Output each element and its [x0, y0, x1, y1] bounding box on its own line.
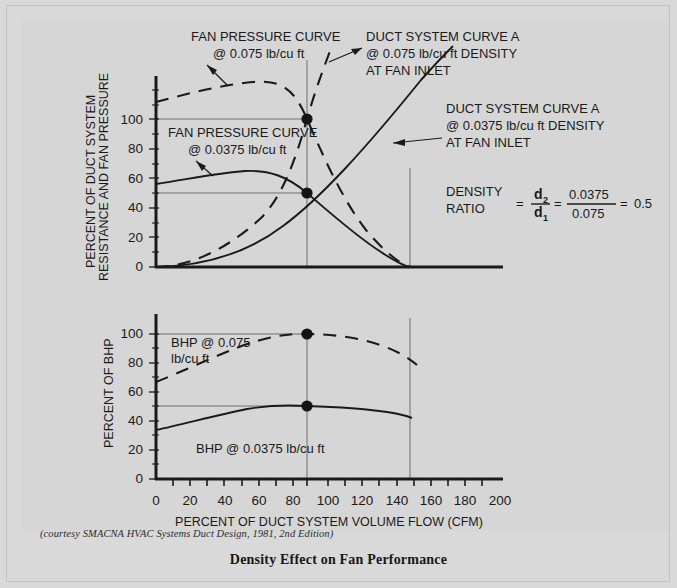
lower-xtick-120: 120 [351, 493, 374, 508]
figure-title: Density Effect on Fan Performance [0, 552, 677, 568]
density-fan-performance-figure: PERCENT OF DUCT SYSTEM RESISTANCE AND FA… [21, 18, 669, 531]
chart-plate: PERCENT OF DUCT SYSTEM RESISTANCE AND FA… [21, 18, 669, 531]
label-bhp-0075-line2: lb/cu ft [171, 351, 210, 366]
label-fan-0075-line2: @ 0.075 lb/cu ft [213, 46, 305, 61]
lower-ytick-20: 20 [128, 442, 143, 457]
density-ratio-denominator-value: 0.075 [572, 206, 605, 221]
lower-operating-point-00375 [301, 400, 312, 411]
upper-operating-point-00375 [301, 187, 312, 198]
density-ratio-label2: RATIO [446, 201, 485, 216]
lower-xtick-160: 160 [420, 493, 443, 508]
upper-ytick-0: 0 [135, 259, 143, 274]
label-duct-0075-line3: AT FAN INLET [366, 63, 451, 78]
lower-xtick-0: 0 [152, 493, 160, 508]
density-ratio-result: 0.5 [634, 196, 652, 211]
lower-chart: PERCENT OF BHP 0 20 40 60 80 100 [102, 314, 511, 529]
upper-operating-point-0075 [301, 113, 312, 124]
density-ratio-equals-2: = [554, 196, 562, 211]
lower-x-axis-label: PERCENT OF DUCT SYSTEM VOLUME FLOW (CFM) [175, 515, 483, 529]
label-duct-0075-line2: @ 0.075 lb/cu ft DENSITY [366, 46, 518, 61]
figure-frame: PERCENT OF DUCT SYSTEM RESISTANCE AND FA… [6, 5, 670, 582]
density-ratio-label1: DENSITY [446, 184, 503, 199]
upper-ytick-60: 60 [128, 171, 143, 186]
lower-xtick-80: 80 [285, 493, 300, 508]
label-duct-00375-line1: DUCT SYSTEM CURVE A [446, 101, 600, 116]
source-caption: (courtesy SMACNA HVAC Systems Duct Desig… [40, 528, 333, 539]
upper-y-axis-label-line2: RESISTANCE AND FAN PRESSURE [97, 73, 111, 281]
lower-xtick-140: 140 [386, 493, 409, 508]
lower-ytick-40: 40 [128, 413, 143, 428]
lower-xtick-200: 200 [489, 493, 512, 508]
lower-xtick-180: 180 [454, 493, 477, 508]
upper-y-axis-label-line1: PERCENT OF DUCT SYSTEM [84, 95, 98, 268]
lower-y-axis-label: PERCENT OF BHP [102, 338, 116, 448]
upper-ytick-100: 100 [120, 112, 143, 127]
lower-ytick-0: 0 [135, 471, 143, 486]
lower-xtick-20: 20 [182, 493, 197, 508]
lower-operating-point-0075 [301, 328, 312, 339]
density-ratio-equals-1: = [516, 196, 524, 211]
lower-xtick-40: 40 [217, 493, 232, 508]
lower-xtick-60: 60 [251, 493, 266, 508]
density-ratio-numerator-value: 0.0375 [569, 187, 609, 202]
lower-ytick-80: 80 [128, 355, 143, 370]
figure-page: PERCENT OF DUCT SYSTEM RESISTANCE AND FA… [0, 0, 677, 588]
density-ratio-expression: DENSITY RATIO = d 2 d 1 = 0.0375 0.075 = [446, 184, 652, 223]
upper-ytick-80: 80 [128, 141, 143, 156]
density-ratio-equals-3: = [620, 196, 628, 211]
label-duct-0075-line1: DUCT SYSTEM CURVE A [366, 29, 520, 44]
label-duct-00375-line3: AT FAN INLET [446, 135, 531, 150]
label-duct-00375-line2: @ 0.0375 lb/cu ft DENSITY [446, 118, 605, 133]
lower-ytick-60: 60 [128, 384, 143, 399]
label-bhp-0075-line1: BHP @ 0.075 [171, 335, 250, 350]
leader-arrow-duct-00375 [393, 139, 405, 146]
lower-xtick-100: 100 [317, 493, 340, 508]
density-ratio-denominator-symbol: d [534, 204, 543, 220]
label-fan-0075-line1: FAN PRESSURE CURVE [191, 29, 341, 44]
upper-ytick-20: 20 [128, 230, 143, 245]
leader-arrow-fan-00375 [196, 161, 206, 171]
curve-bhp-00375 [156, 405, 412, 430]
label-fan-00375-line1: FAN PRESSURE CURVE [168, 125, 318, 140]
upper-chart: PERCENT OF DUCT SYSTEM RESISTANCE AND FA… [84, 29, 652, 281]
density-ratio-denominator-subscript: 1 [543, 213, 548, 223]
curve-fan-pressure-0075 [156, 82, 410, 267]
lower-ytick-100: 100 [120, 326, 143, 341]
upper-ytick-40: 40 [128, 200, 143, 215]
label-bhp-00375: BHP @ 0.0375 lb/cu ft [196, 441, 325, 456]
label-fan-00375-line2: @ 0.0375 lb/cu ft [188, 142, 287, 157]
density-ratio-numerator-symbol: d [534, 186, 543, 202]
